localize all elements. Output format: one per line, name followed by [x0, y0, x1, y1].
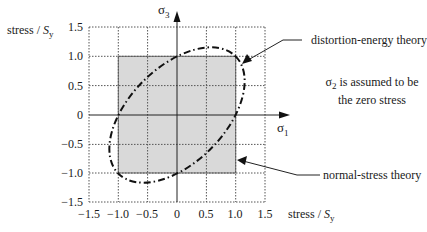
sigma1-symbol: σ	[277, 120, 284, 135]
sigma3-symbol: σ	[158, 2, 165, 17]
sigma1-arrowhead	[279, 112, 290, 119]
sigma2-note-text: is assumed to be	[336, 75, 418, 89]
distortion-leader-arrowhead	[242, 54, 252, 64]
sigma3-sub: 3	[165, 10, 170, 20]
distortion-energy-label: distortion-energy theory	[311, 34, 427, 46]
sigma2-note: σ2 is assumed to be the zero stress	[318, 75, 426, 107]
y-tick: 1.5	[53, 21, 83, 33]
x-axis-label-sub: y	[330, 213, 335, 223]
sigma3-label: σ3	[158, 3, 170, 20]
y-axis-label: stress / Sy	[7, 24, 54, 39]
x-axis-label: stress / Sy	[288, 208, 335, 223]
sigma1-sub: 1	[284, 128, 289, 138]
leader-lines	[243, 40, 320, 175]
sigma2-note-line1: σ2 is assumed to be	[318, 75, 426, 93]
sigma3-arrowhead	[174, 11, 181, 22]
y-tick: 0	[53, 109, 83, 121]
normal-leader-arrowhead	[237, 156, 247, 165]
y-tick: −1.0	[53, 167, 83, 179]
y-tick: 1.0	[53, 50, 83, 62]
normal-stress-label: normal-stress theory	[323, 169, 421, 181]
sigma2-note-line2: the zero stress	[318, 93, 426, 107]
y-tick: 0.5	[53, 80, 83, 92]
sigma1-label: σ1	[277, 121, 289, 138]
y-tick: −0.5	[53, 138, 83, 150]
x-tick: 1.5	[247, 208, 283, 220]
x-axis-label-text: stress /	[288, 207, 324, 221]
y-axis-label-text: stress /	[7, 23, 43, 37]
